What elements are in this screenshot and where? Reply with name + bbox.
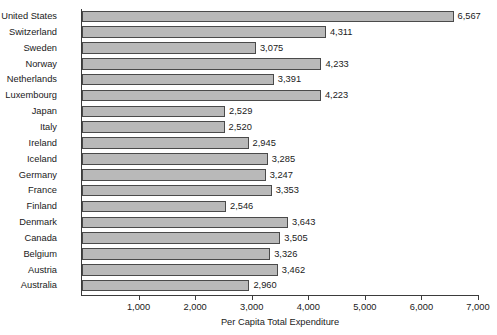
- bar: [82, 185, 272, 197]
- bar: [82, 169, 266, 181]
- bar-value-label: 3,643: [292, 216, 315, 229]
- category-label: Finland: [0, 200, 57, 213]
- bar: [82, 153, 268, 165]
- bar-row: Norway4,233: [82, 57, 478, 73]
- bar-row: Netherlands3,391: [82, 72, 478, 88]
- x-axis-tick: [478, 295, 479, 300]
- bar-value-label: 4,311: [330, 26, 353, 39]
- bar-value-label: 2,945: [253, 137, 276, 150]
- bar-row: United States6,567: [82, 9, 478, 25]
- category-label: Denmark: [0, 216, 57, 229]
- x-axis-tick: [308, 295, 309, 300]
- bar-row: Canada3,505: [82, 231, 478, 247]
- bar: [82, 90, 321, 102]
- bar: [82, 121, 225, 133]
- bar-value-label: 4,233: [325, 58, 348, 71]
- bar-value-label: 3,075: [260, 42, 283, 55]
- category-label: France: [0, 184, 57, 197]
- bar: [82, 11, 454, 23]
- category-label: Germany: [0, 169, 57, 182]
- bar-value-label: 2,520: [229, 121, 252, 134]
- bar-value-label: 4,223: [325, 89, 348, 102]
- bar: [82, 58, 321, 70]
- bar-value-label: 2,960: [253, 279, 276, 292]
- x-axis-tick-label: 5,000: [335, 301, 395, 314]
- category-label: Switzerland: [0, 26, 57, 39]
- category-label: Sweden: [0, 42, 57, 55]
- category-label: Austria: [0, 264, 57, 277]
- bar-value-label: 3,505: [284, 232, 307, 245]
- bar: [82, 264, 278, 276]
- bar-row: Finland2,546: [82, 199, 478, 215]
- x-axis-tick: [252, 295, 253, 300]
- bar: [82, 106, 225, 118]
- x-axis-tick-label: 3,000: [222, 301, 282, 314]
- bar-value-label: 3,353: [276, 184, 299, 197]
- category-label: United States: [0, 10, 57, 23]
- bar-row: Ireland2,945: [82, 136, 478, 152]
- bar: [82, 74, 274, 86]
- bar-value-label: 3,391: [278, 73, 301, 86]
- x-axis-tick-label: 1,000: [109, 301, 169, 314]
- bar-row: Austria3,462: [82, 263, 478, 279]
- category-label: Iceland: [0, 153, 57, 166]
- category-label: Belgium: [0, 248, 57, 261]
- category-label: Australia: [0, 279, 57, 292]
- bar: [82, 137, 249, 149]
- bar-value-label: 2,529: [229, 105, 252, 118]
- x-axis-tick-label: 4,000: [278, 301, 338, 314]
- x-axis-title: Per Capita Total Expenditure: [82, 316, 478, 329]
- x-axis-tick: [365, 295, 366, 300]
- bar-value-label: 2,546: [230, 200, 253, 213]
- x-axis-tick-label: 2,000: [165, 301, 225, 314]
- bar-value-label: 3,285: [272, 153, 295, 166]
- category-label: Netherlands: [0, 73, 57, 86]
- bar: [82, 232, 280, 244]
- category-label: Norway: [0, 58, 57, 71]
- bar-row: Switzerland4,311: [82, 25, 478, 41]
- bar: [82, 201, 226, 213]
- category-label: Ireland: [0, 137, 57, 150]
- x-axis-tick: [195, 295, 196, 300]
- category-label: Luxembourg: [0, 89, 57, 102]
- bar: [82, 217, 288, 229]
- bar-row: Australia2,960: [82, 278, 478, 294]
- x-axis-line: [81, 295, 479, 296]
- bar-row: Luxembourg4,223: [82, 88, 478, 104]
- bar-value-label: 3,326: [274, 248, 297, 261]
- plot-area: United States6,567Switzerland4,311Sweden…: [82, 9, 478, 295]
- category-label: Italy: [0, 121, 57, 134]
- bar-value-label: 3,462: [282, 264, 305, 277]
- bar: [82, 248, 270, 260]
- x-axis-tick: [421, 295, 422, 300]
- x-axis-tick-label: 6,000: [391, 301, 451, 314]
- bar-row: Japan2,529: [82, 104, 478, 120]
- bar-row: Denmark3,643: [82, 215, 478, 231]
- bar-row: Sweden3,075: [82, 41, 478, 57]
- bar: [82, 280, 249, 292]
- x-axis-tick-label: 7,000: [448, 301, 497, 314]
- bar-row: Germany3,247: [82, 168, 478, 184]
- category-label: Canada: [0, 232, 57, 245]
- bar: [82, 42, 256, 54]
- x-axis-tick: [139, 295, 140, 300]
- bar: [82, 26, 326, 38]
- bar-row: France3,353: [82, 183, 478, 199]
- bar-value-label: 6,567: [458, 10, 481, 23]
- category-label: Japan: [0, 105, 57, 118]
- bar-row: Belgium3,326: [82, 247, 478, 263]
- bar-row: Iceland3,285: [82, 152, 478, 168]
- bar-row: Italy2,520: [82, 120, 478, 136]
- bar-value-label: 3,247: [270, 169, 293, 182]
- bar-chart: United States6,567Switzerland4,311Sweden…: [0, 0, 497, 335]
